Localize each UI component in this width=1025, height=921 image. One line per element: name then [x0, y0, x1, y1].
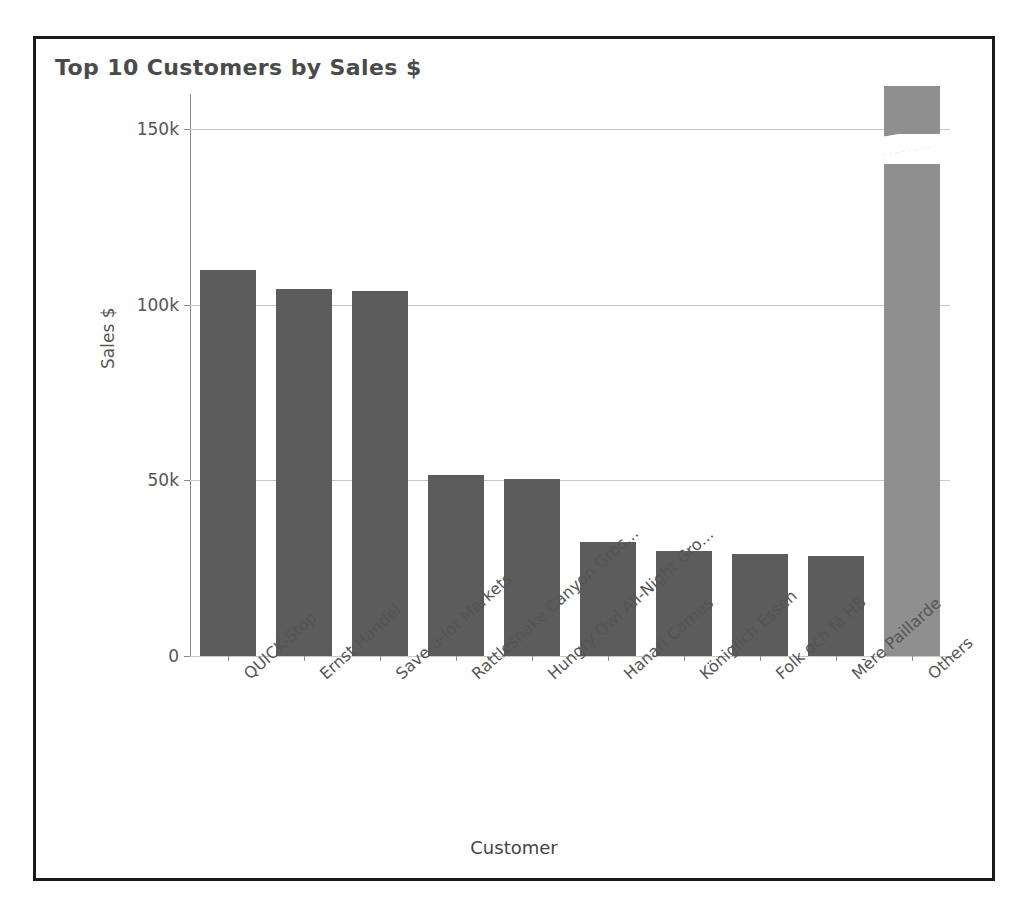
bar-save-a-lot-markets[interactable]	[352, 291, 408, 656]
x-axis-tick-label: Others	[924, 669, 937, 683]
x-axis-tick-label: Ernst Handel	[316, 669, 329, 683]
x-axis-title: Customer	[36, 837, 992, 858]
y-axis-tick-label: 0	[168, 646, 179, 666]
x-axis-tick-labels: QUICK-StopErnst HandelSave-a-lot Markets…	[190, 661, 950, 841]
bars-layer	[190, 94, 950, 656]
x-axis-tick-mark	[228, 656, 229, 661]
axis-break-notch-icon	[882, 134, 942, 164]
chart-title: Top 10 Customers by Sales $	[55, 55, 422, 80]
x-axis-tick-label: Save-a-lot Markets	[392, 669, 405, 683]
y-axis-tick-label: 100k	[137, 295, 179, 315]
x-axis-tick-label: Mère Paillarde	[848, 669, 861, 683]
x-axis-tick-label: Königlich Essen	[696, 669, 709, 683]
x-axis-tick-label: Folk och fä HB	[772, 669, 785, 683]
y-axis-tick-mark	[184, 656, 190, 657]
x-axis-tick-mark	[380, 656, 381, 661]
x-axis-tick-label: Hanari Carnes	[620, 669, 633, 683]
chart-frame: Top 10 Customers by Sales $ Sales $ 050k…	[33, 36, 995, 881]
bar-quick-stop[interactable]	[200, 270, 256, 656]
x-axis-tick-mark	[456, 656, 457, 661]
x-axis-tick-label: Rattlesnake Canyon Groc...	[468, 669, 481, 683]
x-axis-tick-mark	[912, 656, 913, 661]
y-axis-tick-label: 150k	[137, 119, 179, 139]
y-axis-tick-label: 50k	[148, 470, 179, 490]
x-axis-tick-mark	[684, 656, 685, 661]
x-axis-tick-label: QUICK-Stop	[240, 669, 253, 683]
x-axis-tick-mark	[608, 656, 609, 661]
bar-others[interactable]	[884, 86, 940, 656]
y-axis-title: Sales $	[98, 308, 118, 369]
x-axis-tick-label: Hungry Owl All-Night Gro...	[544, 669, 557, 683]
x-axis-tick-mark	[836, 656, 837, 661]
x-axis-tick-mark	[760, 656, 761, 661]
bar-ernst-handel[interactable]	[276, 289, 332, 656]
x-axis-tick-mark	[304, 656, 305, 661]
x-axis-tick-mark	[532, 656, 533, 661]
